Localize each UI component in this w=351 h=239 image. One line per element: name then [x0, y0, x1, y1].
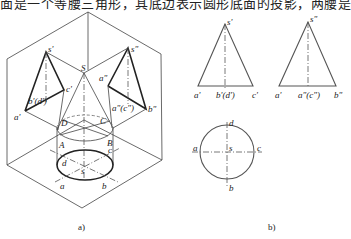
label-c-prime: c' [66, 84, 73, 94]
front-view: s' a' b'(d') c' [194, 17, 259, 100]
label-b: b [102, 181, 107, 191]
label-s-prime: s' [48, 44, 55, 54]
side-view: s" a' a"(c") b" [275, 14, 343, 100]
caption-a: a) [78, 222, 85, 232]
label-c: c [108, 145, 112, 155]
figure-a: s' c' a' b'(d') S s" a" a"(c") b" D C A … [7, 12, 162, 232]
front-base-left-label: a' [194, 90, 202, 100]
side-base-mid-label: a"(c") [298, 90, 320, 100]
front-base-mid-label: b'(d') [216, 90, 235, 100]
projection-box-outline [7, 12, 162, 208]
projection-diagram: s' c' a' b'(d') S s" a" a"(c") b" D C A … [0, 0, 351, 239]
label-ac-dprime: a"(c") [112, 103, 134, 113]
side-base-right-label: b" [334, 90, 343, 100]
figure-b: s' a' b'(d') c' s" a' a"(c") b" d a s c … [192, 14, 343, 232]
label-d: d [62, 158, 67, 168]
front-projection-on-wall [25, 52, 64, 130]
side-projection-on-wall [108, 48, 146, 128]
caption-b: b) [268, 222, 276, 232]
label-a-dprime: a" [99, 73, 108, 83]
top-view-label-d: d [229, 118, 234, 128]
label-a: a [60, 181, 65, 191]
label-s-dprime: s" [131, 44, 139, 54]
top-view-label-c: c [257, 143, 261, 153]
top-view-label-a: a [193, 143, 198, 153]
label-A: A [58, 140, 65, 150]
front-base-right-label: c' [252, 90, 259, 100]
label-C: C [100, 116, 107, 126]
label-s: s [81, 166, 85, 176]
top-view-label-s: s [229, 143, 233, 153]
top-view-label-b: b [229, 183, 234, 193]
side-base-left-label: a' [275, 90, 283, 100]
front-apex-label: s' [227, 17, 234, 27]
box-edge-left [7, 120, 84, 165]
label-D: D [60, 118, 68, 128]
label-bd-prime: b'(d') [28, 96, 47, 106]
top-view: d a s c b [192, 118, 262, 193]
side-apex-label: s" [310, 14, 318, 24]
label-b-dprime: b" [148, 104, 157, 114]
label-a-prime: a' [14, 112, 22, 122]
label-S: S [81, 63, 86, 73]
